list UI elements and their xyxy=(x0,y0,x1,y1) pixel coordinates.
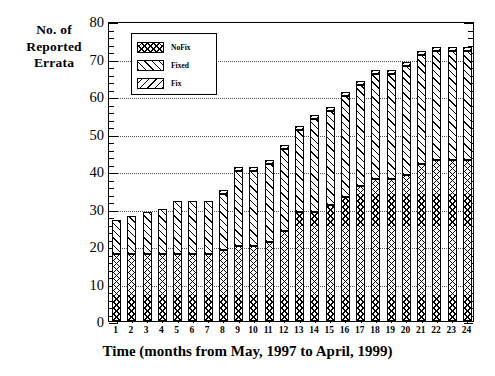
x-tick-label: 9 xyxy=(235,325,240,335)
bar-segment-fix xyxy=(387,70,396,74)
x-tick-label: 6 xyxy=(190,325,195,335)
bar-segment-nofix xyxy=(387,179,396,322)
x-tick-label: 12 xyxy=(279,325,289,335)
bar-segment-fixed xyxy=(341,96,350,197)
bar-segment-fixed xyxy=(219,194,228,250)
bar-column xyxy=(402,21,411,321)
x-tick-label: 3 xyxy=(144,325,149,335)
bar-segment-fixed xyxy=(295,130,304,213)
bar-segment-fix xyxy=(249,167,258,171)
x-tick-label: 20 xyxy=(401,325,411,335)
y-tick-label: 10 xyxy=(90,276,105,293)
bar-segment-nofix xyxy=(432,160,441,321)
errata-bar-chart-figure: No. of Reported Errata 01020304050607080… xyxy=(0,0,495,376)
chart-legend: NoFix Fixed Fix xyxy=(131,33,217,95)
bar-segment-nofix xyxy=(219,250,228,321)
bar-segment-nofix xyxy=(417,164,426,322)
bar-segment-nofix xyxy=(265,242,274,321)
y-tick-label: 70 xyxy=(90,51,105,68)
y-tick-major-right xyxy=(464,323,473,324)
bar-segment-nofix xyxy=(371,179,380,322)
legend-label-nofix: NoFix xyxy=(171,43,191,52)
legend-item-fix: Fix xyxy=(137,74,216,92)
bar-column xyxy=(265,21,274,321)
x-tick-label: 17 xyxy=(355,325,365,335)
plot-area: NoFix Fixed Fix xyxy=(108,22,474,322)
bar-segment-fixed xyxy=(265,164,274,243)
bar-segment-nofix xyxy=(280,231,289,321)
bar-segment-fixed xyxy=(158,209,167,254)
bar-segment-fix xyxy=(310,115,319,119)
bar-segment-fixed xyxy=(112,220,121,254)
legend-item-nofix: NoFix xyxy=(137,38,216,56)
y-tick-label: 30 xyxy=(90,201,105,218)
bar-segment-fix xyxy=(280,145,289,149)
bar-column xyxy=(371,21,380,321)
bar-segment-nofix xyxy=(143,254,152,322)
bar-segment-fixed xyxy=(188,201,197,254)
bar-column xyxy=(112,21,121,321)
legend-label-fix: Fix xyxy=(171,79,181,88)
legend-item-fixed: Fixed xyxy=(137,56,216,74)
bar-segment-fix xyxy=(341,92,350,96)
x-tick-label: 14 xyxy=(309,325,319,335)
bar-column xyxy=(448,21,457,321)
bar-segment-fix xyxy=(417,51,426,55)
x-axis-tick-labels: 123456789101112131415161718192021222324 xyxy=(108,325,474,341)
bar-segment-fixed xyxy=(463,51,472,160)
bar-segment-fix xyxy=(326,107,335,111)
bar-column xyxy=(295,21,304,321)
bar-segment-nofix xyxy=(188,254,197,322)
bar-segment-nofix xyxy=(173,254,182,322)
bar-segment-fix xyxy=(356,81,365,85)
bar-column xyxy=(234,21,243,321)
y-tick-label: 40 xyxy=(90,164,105,181)
bar-segment-fixed xyxy=(173,201,182,254)
bar-segment-nofix xyxy=(463,160,472,321)
bar-column xyxy=(219,21,228,321)
bar-segment-fix xyxy=(448,47,457,51)
bar-segment-fixed xyxy=(371,74,380,179)
y-tick-label: 80 xyxy=(90,14,105,31)
bar-segment-fix xyxy=(463,47,472,51)
bar-segment-fixed xyxy=(249,171,258,246)
bar-segment-fix xyxy=(295,126,304,130)
bar-segment-fixed xyxy=(280,149,289,232)
x-tick-label: 4 xyxy=(159,325,164,335)
y-tick-label: 50 xyxy=(90,126,105,143)
y-tick-label: 20 xyxy=(90,239,105,256)
y-tick-major xyxy=(109,323,118,324)
bar-column xyxy=(432,21,441,321)
legend-label-fixed: Fixed xyxy=(171,61,189,70)
bar-segment-fixed xyxy=(326,111,335,205)
bar-segment-fixed xyxy=(402,66,411,175)
y-axis-tick-labels: 01020304050607080 xyxy=(62,22,104,322)
bar-column xyxy=(417,21,426,321)
bar-column xyxy=(280,21,289,321)
bar-segment-nofix xyxy=(448,160,457,321)
plot-inner: NoFix Fixed Fix xyxy=(109,23,473,321)
bar-column xyxy=(356,21,365,321)
bar-segment-nofix xyxy=(204,254,213,322)
bar-segment-fix xyxy=(219,190,228,194)
x-tick-label: 18 xyxy=(370,325,380,335)
x-tick-label: 15 xyxy=(324,325,334,335)
bar-column xyxy=(463,21,472,321)
bar-segment-fix xyxy=(371,70,380,74)
bar-segment-nofix xyxy=(295,212,304,321)
x-tick-label: 24 xyxy=(462,325,472,335)
bar-segment-nofix xyxy=(127,254,136,322)
bar-segment-fix xyxy=(402,62,411,66)
x-tick-label: 13 xyxy=(294,325,304,335)
x-tick-label: 8 xyxy=(220,325,225,335)
bar-segment-fixed xyxy=(234,171,243,246)
bar-segment-nofix xyxy=(249,246,258,321)
x-tick-label: 19 xyxy=(385,325,395,335)
bar-segment-nofix xyxy=(402,175,411,321)
bar-segment-nofix xyxy=(326,205,335,321)
x-tick-label: 23 xyxy=(446,325,456,335)
bar-segment-fixed xyxy=(143,212,152,253)
bar-segment-fixed xyxy=(448,51,457,160)
legend-swatch-nofix-icon xyxy=(137,42,164,53)
bar-column xyxy=(341,21,350,321)
